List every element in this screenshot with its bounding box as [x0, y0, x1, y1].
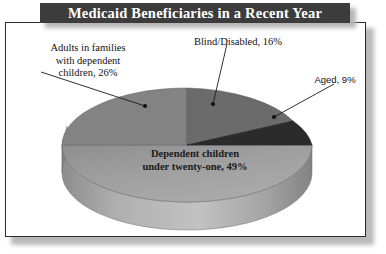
label-adults-in-families: Adults in families with dependent childr…	[18, 42, 158, 80]
chart-figure: Medicaid Beneficiaries in a Recent Year	[0, 0, 386, 254]
pie-top-face	[62, 88, 312, 202]
label-aged: Aged, 9%	[300, 74, 370, 87]
label-adults-line1: Adults in families	[18, 42, 158, 55]
label-blind-disabled: Blind/Disabled, 16%	[168, 36, 308, 49]
label-dependent-children: Dependent children under twenty-one, 49%	[110, 148, 280, 173]
leader-dot-aged	[272, 115, 276, 119]
chart-title-bar: Medicaid Beneficiaries in a Recent Year	[40, 3, 350, 23]
slice-adults-in-families	[62, 88, 187, 145]
leader-dot-blind	[211, 102, 215, 106]
chart-title: Medicaid Beneficiaries in a Recent Year	[68, 6, 322, 21]
label-dependent-line1: Dependent children	[110, 148, 280, 161]
leader-line-aged	[274, 84, 334, 117]
leader-dot-adults	[143, 104, 147, 108]
label-adults-line2: with dependent	[18, 55, 158, 68]
label-dependent-line2: under twenty-one, 49%	[110, 161, 280, 174]
label-adults-line3: children, 26%	[18, 67, 158, 80]
